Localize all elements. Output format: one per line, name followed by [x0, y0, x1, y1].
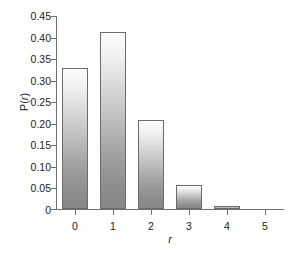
y-tick-mark — [51, 124, 56, 125]
y-tick-mark — [51, 209, 56, 210]
y-tick-label: 0.30 — [31, 75, 51, 87]
y-tick-label: 0.15 — [31, 139, 51, 151]
y-tick-label: 0 — [45, 204, 51, 216]
bar-1 — [100, 32, 125, 209]
x-tick-label: 4 — [224, 220, 230, 232]
x-axis-label: r — [56, 233, 284, 245]
y-tick-label: 0.25 — [31, 96, 51, 108]
bar-2 — [138, 120, 163, 209]
bar-series — [56, 16, 284, 209]
y-tick-mark — [51, 81, 56, 82]
y-tick-label: 0.10 — [31, 161, 51, 173]
x-tick-mark — [227, 210, 228, 215]
bar-chart: P(r) 0.450.400.350.300.250.200.150.100.0… — [0, 0, 303, 259]
y-tick-mark — [51, 167, 56, 168]
x-tick-label: 5 — [262, 220, 268, 232]
x-tick-label: 1 — [110, 220, 116, 232]
x-tick-label: 3 — [186, 220, 192, 232]
y-tick-label: 0.45 — [31, 10, 51, 22]
x-tick-mark — [75, 210, 76, 215]
x-tick-label: 2 — [148, 220, 154, 232]
y-tick-mark — [51, 16, 56, 17]
y-tick-mark — [51, 188, 56, 189]
x-axis-line — [56, 209, 284, 210]
bar-3 — [176, 185, 201, 209]
bar-4 — [214, 206, 239, 209]
y-tick-mark — [51, 102, 56, 103]
y-tick-label: 0.05 — [31, 182, 51, 194]
x-tick-label: 0 — [72, 220, 78, 232]
y-tick-label: 0.40 — [31, 32, 51, 44]
plot-area: 012345 — [56, 16, 284, 210]
x-tick-mark — [265, 210, 266, 215]
y-tick-mark — [51, 59, 56, 60]
y-axis-tick-labels: 0.450.400.350.300.250.200.150.100.050 — [14, 16, 51, 210]
y-tick-mark — [51, 145, 56, 146]
y-tick-label: 0.35 — [31, 53, 51, 65]
y-tick-label: 0.20 — [31, 118, 51, 130]
x-tick-mark — [113, 210, 114, 215]
bar-0 — [62, 68, 87, 209]
x-tick-mark — [189, 210, 190, 215]
y-tick-mark — [51, 38, 56, 39]
x-tick-mark — [151, 210, 152, 215]
